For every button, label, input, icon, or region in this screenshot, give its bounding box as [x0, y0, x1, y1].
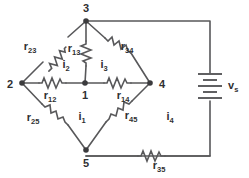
node-dot-2 [19, 80, 25, 86]
resistor-sub-r23: 23 [28, 46, 36, 55]
current-sub-i4: 4 [169, 116, 174, 125]
branch-r34 [86, 21, 150, 83]
circuit-canvas: 3 2 1 4 5 r23 r13 r34 r12 r14 r25 r45 r3… [0, 0, 249, 178]
wire-r23-to-node3 [68, 21, 86, 37]
node-label-4: 4 [159, 78, 166, 90]
zigzag-r12 [39, 78, 66, 88]
source-label-vs: vs [228, 79, 238, 94]
node-dot-5 [83, 147, 89, 153]
node-label-5: 5 [83, 157, 89, 169]
node-label-3: 3 [83, 2, 89, 14]
current-sub-i1: 1 [81, 116, 85, 125]
branch-r14 [85, 78, 150, 88]
source-labels: vs [228, 79, 238, 94]
current-label-i1: i1 [78, 110, 85, 125]
resistor-label-r23: r23 [24, 40, 37, 55]
resistor-sub-r14: 14 [121, 95, 130, 104]
resistor-label-r14: r14 [117, 89, 130, 104]
resistor-sub-r25: 25 [31, 117, 39, 126]
branch-r13 [81, 21, 91, 83]
wire-r45-to-node5 [86, 122, 106, 150]
zigzag-r14 [104, 78, 131, 88]
zigzag-r25 [42, 104, 68, 125]
current-label-i2: i2 [62, 58, 69, 73]
wire-node4-to-r45 [132, 83, 150, 101]
resistor-label-r35: r35 [153, 159, 166, 174]
wire-source-to-bottom-node5 [86, 101, 210, 156]
resistor-label-r25: r25 [27, 111, 40, 126]
wire-node2-to-r23 [22, 62, 43, 83]
resistor-sub-r45: 45 [129, 115, 137, 124]
wire-node2-to-r25 [22, 83, 42, 104]
node-dot-1 [82, 80, 88, 86]
circuit-diagram: 3 2 1 4 5 r23 r13 r34 r12 r14 r25 r45 r3… [0, 0, 249, 178]
resistor-label-r12: r12 [44, 89, 57, 104]
resistor-sub-r13: 13 [72, 48, 80, 57]
current-label-i4: i4 [166, 110, 174, 125]
resistor-label-r34: r34 [121, 40, 134, 55]
resistor-sub-r12: 12 [48, 95, 56, 104]
resistor-sub-r35: 35 [157, 165, 165, 174]
voltage-source-vs [198, 74, 222, 98]
node-dot-3 [83, 18, 89, 24]
branch-r12 [22, 78, 85, 88]
wire-node3-to-r34 [86, 21, 105, 38]
resistor-label-r13: r13 [68, 42, 81, 57]
current-sub-i2: 2 [65, 64, 69, 73]
node-label-2: 2 [7, 78, 13, 90]
resistor-sub-r34: 34 [125, 46, 134, 55]
wire-r34-to-node4 [131, 53, 150, 83]
current-label-i3: i3 [100, 58, 107, 73]
source-sub-vs: s [234, 85, 238, 94]
wire-r25-to-node5 [68, 125, 86, 150]
current-sub-i3: 3 [103, 64, 107, 73]
node-label-1: 1 [82, 89, 88, 101]
node-dot-4 [147, 80, 153, 86]
zigzag-r13 [81, 41, 91, 66]
outer-loop-wires [86, 21, 210, 156]
resistor-label-r45: r45 [125, 109, 138, 124]
